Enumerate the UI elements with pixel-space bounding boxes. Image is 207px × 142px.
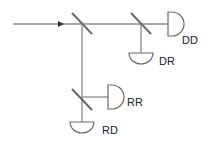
detector-rr: [108, 85, 124, 109]
detector-dr: [129, 53, 153, 64]
label-rr: RR: [127, 96, 143, 108]
diagram-canvas: DD DR RR RD: [0, 0, 207, 142]
detector-rd: [70, 122, 94, 133]
label-rd: RD: [102, 124, 118, 136]
label-dr: DR: [159, 55, 175, 67]
detector-dd: [168, 12, 184, 36]
label-dd: DD: [182, 34, 198, 46]
beam-arrow-icon: [58, 21, 64, 27]
